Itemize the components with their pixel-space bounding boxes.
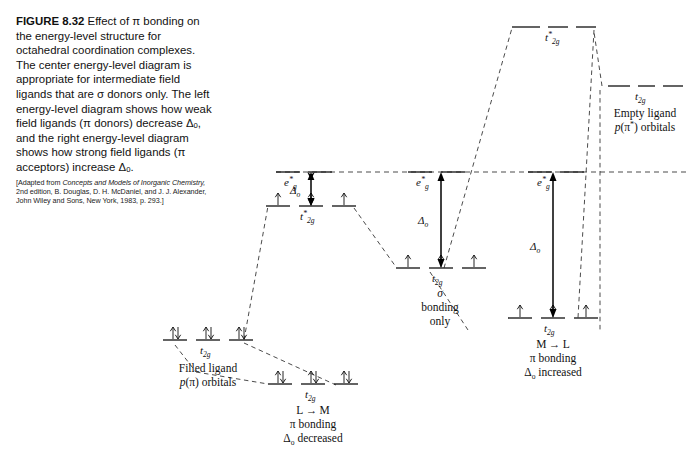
- label-center-t2g: t2g: [432, 272, 443, 287]
- caption-filled-ligand-line1: Filled ligand: [179, 362, 238, 375]
- level-right-t2g-star: t*2g: [512, 27, 596, 46]
- panel-center: e*g t2g Δo: [396, 172, 486, 328]
- caption-right-line1: M → L: [536, 338, 569, 350]
- label-left-bottom-t2g: t2g: [305, 388, 316, 403]
- label-right-t2g: t2g: [544, 322, 555, 337]
- caption-center-line3: only: [430, 315, 451, 328]
- label-empty-ligand-t2g: t2g: [635, 90, 646, 105]
- caption-filled-ligand-line2: p(π) orbitals: [179, 376, 237, 389]
- level-left-bottom-t2g: t2g: [268, 371, 358, 403]
- figure-root: FIGURE 8.32 Effect of π bonding on the e…: [0, 0, 686, 456]
- caption-center-line1: σ: [437, 287, 444, 299]
- electron-arrows-filled-ligand: [170, 327, 246, 339]
- electron-arrows-left-bottom: [275, 371, 351, 383]
- connector-center-to-right-t2gstar: [444, 28, 512, 268]
- energy-level-diagram: e*g t*2g Δo: [0, 0, 686, 456]
- connector-ligand-to-left-t2gstar: [244, 206, 268, 340]
- label-left-t2g-star: t*2g: [300, 209, 315, 225]
- connector-lines: [175, 28, 686, 385]
- caption-center-line2: bonding: [421, 301, 459, 314]
- connector-right-t2gstar-down: [578, 30, 594, 318]
- label-delta-o-right: Δo: [529, 240, 540, 255]
- label-right-eg-star: e*g: [537, 175, 550, 191]
- connector-empty-ligand-up: [594, 32, 602, 86]
- caption-left-line2: π bonding: [290, 418, 337, 431]
- block-empty-ligand: t2g Empty ligand p(π*) orbitals: [608, 86, 683, 134]
- delta-o-arrow-center: Δo: [417, 172, 445, 268]
- delta-o-arrow-right: Δo: [529, 172, 557, 318]
- caption-empty-ligand-line1: Empty ligand: [614, 107, 677, 120]
- caption-left-line1: L → M: [296, 404, 329, 416]
- caption-panel-center: σ bonding only: [421, 287, 459, 328]
- label-filled-ligand-t2g: t2g: [200, 344, 211, 359]
- caption-right-line2: π bonding: [530, 352, 577, 365]
- level-right-eg-star: e*g: [528, 172, 584, 191]
- label-delta-o-left: Δo: [289, 184, 300, 199]
- panel-left: e*g t*2g Δo: [266, 172, 358, 447]
- caption-panel-left: L → M π bonding Δo decreased: [283, 404, 343, 447]
- level-left-eg-star: e*g: [276, 172, 332, 191]
- label-right-t2g-star: t*2g: [545, 30, 560, 46]
- caption-right-line3: Δo increased: [524, 366, 582, 381]
- caption-panel-right: M → L π bonding Δo increased: [524, 338, 582, 381]
- label-center-eg-star: e*g: [416, 175, 429, 191]
- caption-empty-ligand-line2: p(π*) orbitals: [614, 120, 676, 134]
- label-delta-o-center: Δo: [417, 214, 428, 229]
- block-filled-ligand: t2g Filled ligand p(π) orbitals: [163, 327, 253, 389]
- caption-left-line3: Δo decreased: [283, 432, 343, 447]
- connector-ligand-to-bonding: [244, 343, 336, 385]
- connector-left-t2gstar-to-center: [354, 208, 396, 267]
- level-center-eg-star: e*g: [408, 172, 465, 191]
